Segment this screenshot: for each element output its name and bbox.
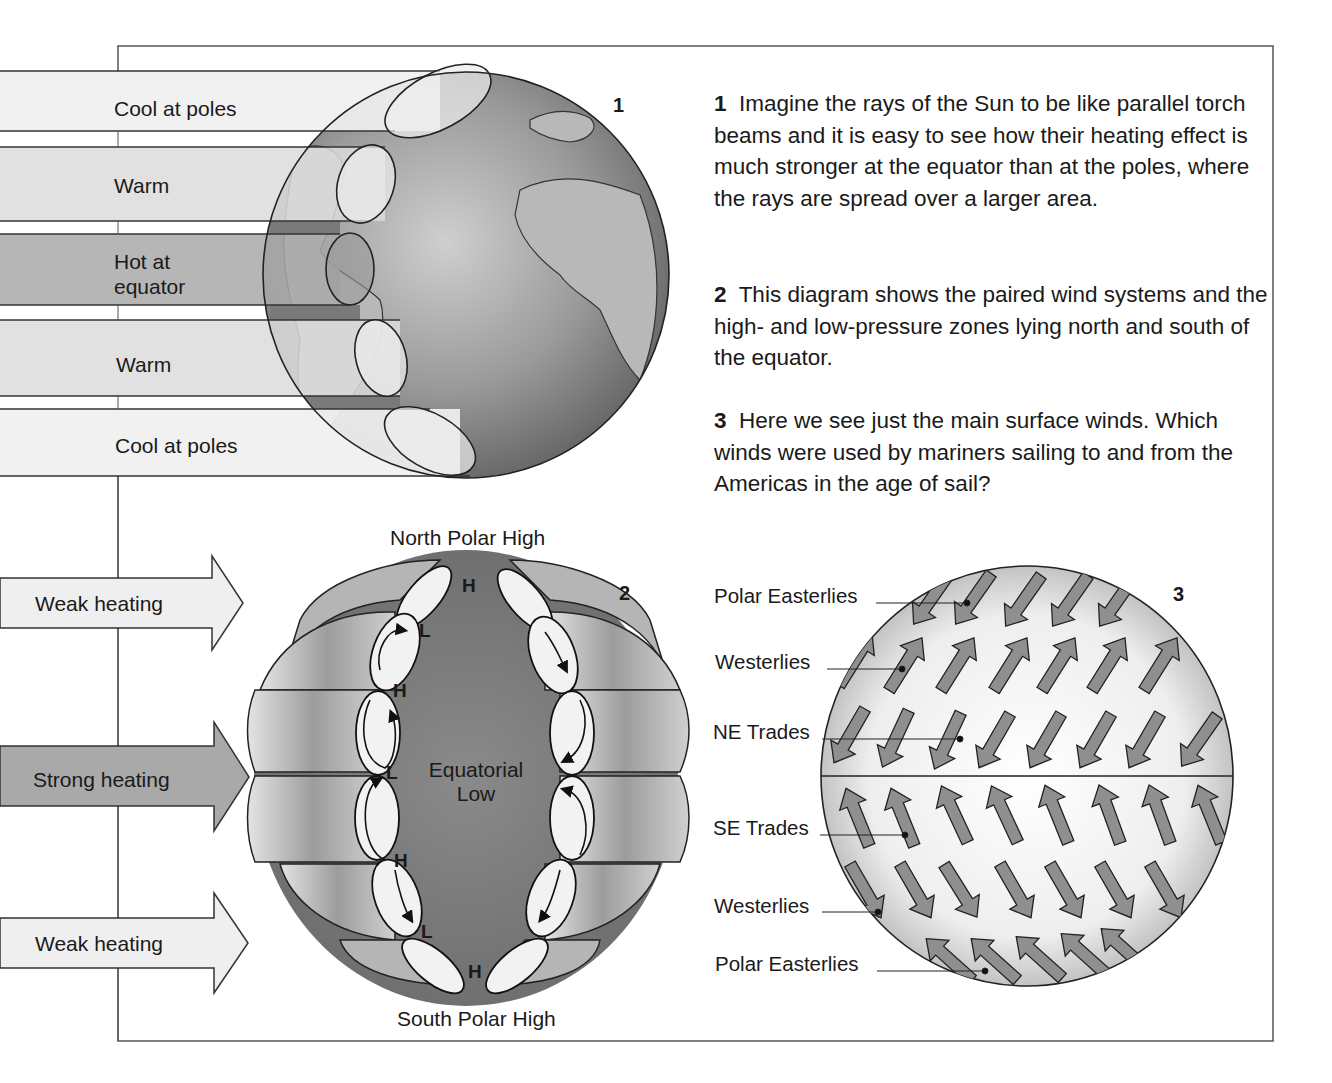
wind-label-polar-easterlies-north: Polar Easterlies [714,584,858,608]
wind-label-ne-trades: NE Trades [713,720,810,744]
wind-label-polar-easterlies-south: Polar Easterlies [715,952,859,976]
wind-label-westerlies-north: Westerlies [715,650,810,674]
figure-3-number: 3 [1173,583,1184,606]
figure-3-surface-winds-diagram [0,0,1332,1083]
wind-label-se-trades: SE Trades [713,816,809,840]
wind-label-westerlies-south: Westerlies [714,894,809,918]
